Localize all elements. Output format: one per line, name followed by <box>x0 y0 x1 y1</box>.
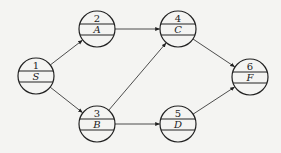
edge-4-6 <box>193 39 235 67</box>
node-number: 4 <box>175 13 181 24</box>
node-3: 3B <box>79 106 115 142</box>
node-label: B <box>92 119 100 130</box>
node-label: S <box>33 71 40 82</box>
node-number: 3 <box>94 108 100 119</box>
node-label: A <box>92 24 100 35</box>
node-label: D <box>173 119 182 130</box>
node-number: 1 <box>33 60 39 71</box>
node-number: 2 <box>94 13 100 24</box>
edge-1-2 <box>50 40 82 65</box>
edge-1-3 <box>50 87 82 112</box>
node-4: 4C <box>160 11 196 47</box>
network-diagram: 1S2A3B4C5D6F <box>0 0 281 153</box>
edges-layer <box>50 29 234 124</box>
node-number: 6 <box>247 61 253 72</box>
node-label: C <box>174 24 182 35</box>
node-6: 6F <box>232 59 268 95</box>
nodes-layer: 1S2A3B4C5D6F <box>18 11 268 142</box>
node-label: F <box>246 72 255 83</box>
node-5: 5D <box>160 106 196 142</box>
node-number: 5 <box>175 108 181 119</box>
edge-5-6 <box>193 87 234 114</box>
edge-3-4 <box>109 43 166 110</box>
node-2: 2A <box>79 11 115 47</box>
node-1: 1S <box>18 58 54 94</box>
